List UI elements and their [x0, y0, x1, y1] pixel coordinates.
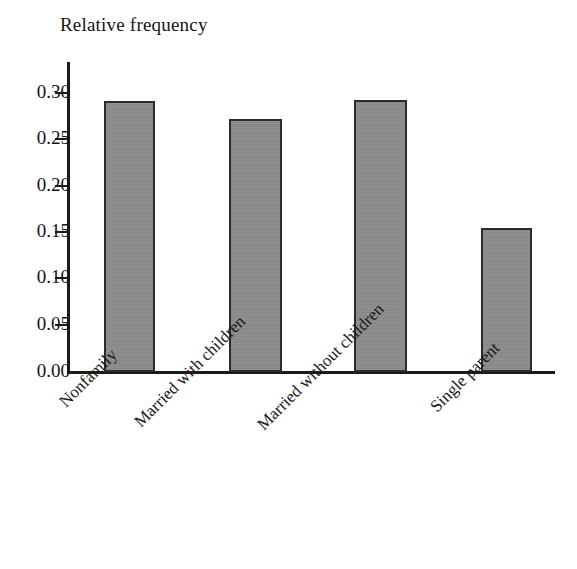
y-tick-label: 0.10 — [16, 267, 70, 286]
bar-nonfamily[interactable] — [104, 101, 155, 372]
y-tick-label: 0.00 — [16, 361, 70, 380]
y-tick-label: 0.15 — [16, 221, 70, 240]
x-label-single-parent: Single parent — [427, 339, 503, 415]
y-tick-label: 0.05 — [16, 314, 70, 333]
y-tick-label: 0.20 — [16, 175, 70, 194]
chart-title: Relative frequency — [60, 14, 208, 36]
y-tick-label: 0.25 — [16, 128, 70, 147]
y-tick-label: 0.30 — [16, 82, 70, 101]
bar-chart: Relative frequency 0.30 0.25 0.20 0.15 0… — [0, 0, 577, 569]
